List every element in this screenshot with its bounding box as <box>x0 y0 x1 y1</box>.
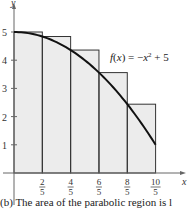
x-tick-label: 25 <box>39 177 45 197</box>
x-tick-label: 85 <box>124 177 130 197</box>
x-axis-label: x <box>181 176 187 187</box>
x-tick-label: 65 <box>96 177 102 197</box>
y-tick-label: 5 <box>2 27 7 38</box>
y-tick-label: 3 <box>2 83 7 94</box>
x-tick-label: 45 <box>68 177 74 197</box>
y-tick-label: 1 <box>2 140 7 151</box>
svg-text:8: 8 <box>125 177 130 187</box>
svg-text:6: 6 <box>97 177 102 187</box>
y-tick-label: 2 <box>2 112 7 123</box>
y-axis-label: y <box>10 0 16 8</box>
function-label: f(x) = −x2 + 5 <box>110 51 169 64</box>
figure-caption: (b) The area of the parabolic region is … <box>0 196 172 208</box>
y-tick-label: 4 <box>2 55 7 66</box>
x-tick-label: 105 <box>151 177 161 197</box>
x-ticks: 25456585105 <box>39 177 160 197</box>
riemann-sum-chart: x y 12345 25456585105 f(x) = −x2 + 5 <box>0 0 188 209</box>
svg-text:10: 10 <box>151 177 161 187</box>
svg-text:2: 2 <box>40 177 45 187</box>
svg-text:4: 4 <box>68 177 73 187</box>
x-axis-arrow-icon <box>180 171 186 175</box>
